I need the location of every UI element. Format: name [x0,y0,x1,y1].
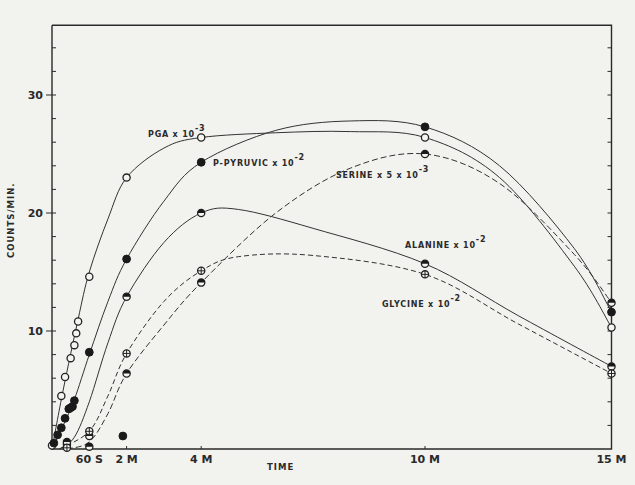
data-point-alanine [421,260,428,267]
data-point-p-pyruvic [421,123,429,131]
plot-frame [52,25,612,449]
x-tick-label: 10 M [410,453,440,466]
data-point-serine [123,370,130,377]
data-point-pga [198,134,205,141]
data-point-pga [73,330,80,337]
series-label-p-pyruvic: P-PYRUVIC x 10-2 [213,153,305,168]
data-point-alanine [123,293,130,300]
data-point-serine [421,150,428,157]
data-point-pga [421,134,428,141]
data-point-p-pyruvic [57,424,65,432]
data-point-p-pyruvic [54,431,62,439]
y-tick-label: 20 [28,207,44,220]
chart-axes: 10203060 S2 M4 M10 M15 M [28,25,627,466]
data-point-pga [71,342,78,349]
data-point-p-pyruvic [50,439,58,447]
curve-alanine [59,208,611,449]
data-point-pga [75,318,82,325]
data-point-glycine [86,428,93,435]
data-point-p-pyruvic [123,255,131,263]
data-point-pga [61,373,68,380]
x-tick-label: 2 M [115,453,137,466]
data-point-pga [86,273,93,280]
curve-serine [67,153,612,449]
data-point-extra [119,432,127,440]
chart: 10203060 S2 M4 M10 M15 M PGA x 10-3P-PYR… [0,0,635,485]
x-tick-label: 15 M [596,453,626,466]
data-point-serine [198,279,205,286]
chart-points [48,123,615,451]
data-point-p-pyruvic [61,414,69,422]
data-point-serine [86,443,93,450]
x-tick-label: 60 S [76,453,103,466]
data-point-pga [123,174,130,181]
series-label-pga: PGA x 10-3 [148,124,205,139]
curve-pga [52,131,612,449]
data-point-alanine [608,363,615,370]
data-point-pga [67,355,74,362]
data-point-glycine [421,271,428,278]
data-point-glycine [63,444,70,451]
x-axis-label: TIME [267,462,294,472]
data-point-p-pyruvic [608,308,616,316]
data-point-p-pyruvic [70,397,78,405]
series-label-serine: SERINE x 5 x 10-3 [336,165,429,180]
y-tick-label: 10 [28,325,44,338]
data-point-p-pyruvic [85,348,93,356]
chart-curves [52,121,612,449]
data-point-glycine [608,370,615,377]
data-point-alanine [198,209,205,216]
data-point-glycine [123,350,130,357]
curve-p-pyruvic [52,121,612,449]
series-label-glycine: GLYCINE x 10-2 [382,294,461,309]
y-tick-label: 30 [28,89,44,102]
data-point-serine [608,299,615,306]
data-point-p-pyruvic [197,158,205,166]
y-axis-label: COUNTS/MIN. [6,183,16,258]
data-point-glycine [198,267,205,274]
data-point-pga [608,324,615,331]
series-label-alanine: ALANINE x 10-2 [405,235,486,250]
data-point-pga [58,392,65,399]
x-tick-label: 4 M [190,453,212,466]
